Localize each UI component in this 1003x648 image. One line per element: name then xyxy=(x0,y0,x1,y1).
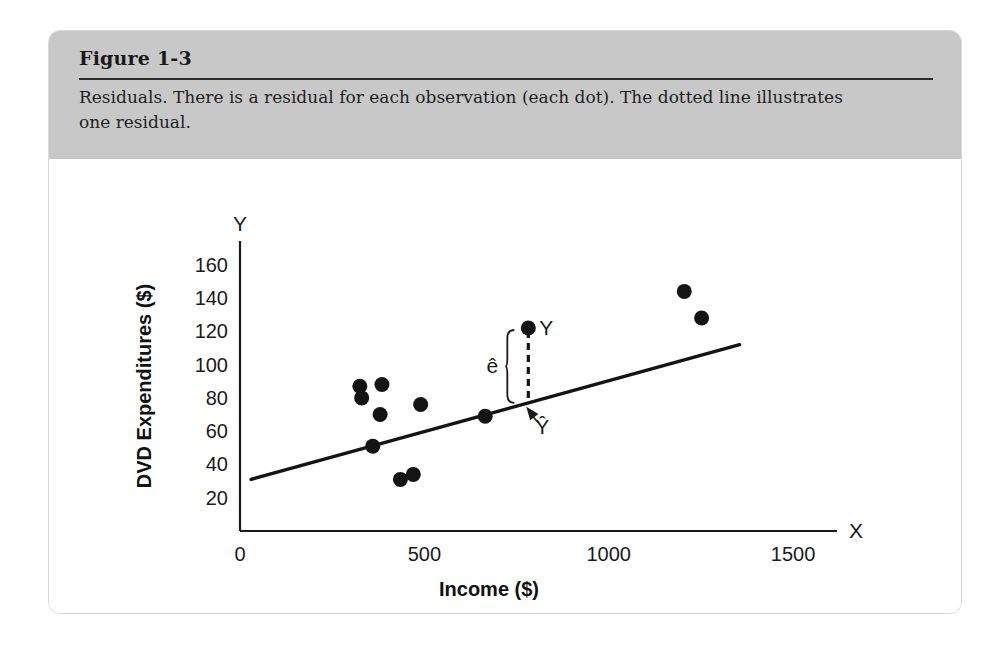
data-point xyxy=(365,439,380,454)
y-tick-label: 20 xyxy=(206,487,228,509)
data-point xyxy=(374,377,389,392)
data-point xyxy=(677,284,692,299)
residual-brace-label: ê xyxy=(486,354,498,377)
x-tick-label: 500 xyxy=(408,543,441,565)
data-point xyxy=(413,397,428,412)
figure-card: Figure 1-3 Residuals. There is a residua… xyxy=(48,30,962,614)
data-point xyxy=(373,407,388,422)
fitted-value-label: Ŷ xyxy=(535,415,549,438)
y-axis-name: Y xyxy=(233,212,247,235)
y-tick-label: 80 xyxy=(206,387,228,409)
y-axis-title: DVD Expenditures ($) xyxy=(133,284,155,488)
x-tick-label: 1500 xyxy=(771,543,816,565)
scatter-chart: Y X 20406080100120140160 050010001500 DV… xyxy=(49,159,962,614)
figure-title: Figure 1-3 xyxy=(79,47,192,69)
observed-point-label: Y xyxy=(539,316,553,339)
y-tick-labels: 20406080100120140160 xyxy=(195,254,228,509)
x-axis-name: X xyxy=(849,519,863,542)
title-divider xyxy=(79,78,933,80)
data-point xyxy=(694,311,709,326)
data-points xyxy=(352,284,709,487)
y-tick-label: 40 xyxy=(206,453,228,475)
residual-brace xyxy=(505,330,514,403)
figure-header-band: Figure 1-3 Residuals. There is a residua… xyxy=(49,31,961,159)
axes xyxy=(240,241,837,531)
y-tick-label: 120 xyxy=(195,320,228,342)
figure-caption: Residuals. There is a residual for each … xyxy=(79,85,869,135)
plot-area: Y X 20406080100120140160 050010001500 DV… xyxy=(49,159,961,614)
y-tick-label: 160 xyxy=(195,254,228,276)
x-axis-title: Income ($) xyxy=(439,578,539,600)
data-point xyxy=(478,409,493,424)
data-point xyxy=(354,390,369,405)
x-tick-label: 1000 xyxy=(586,543,631,565)
y-tick-label: 60 xyxy=(206,420,228,442)
y-tick-label: 100 xyxy=(195,354,228,376)
x-tick-label: 0 xyxy=(234,543,245,565)
data-point xyxy=(406,467,421,482)
x-tick-labels: 050010001500 xyxy=(234,543,815,565)
y-tick-label: 140 xyxy=(195,287,228,309)
data-point xyxy=(393,472,408,487)
